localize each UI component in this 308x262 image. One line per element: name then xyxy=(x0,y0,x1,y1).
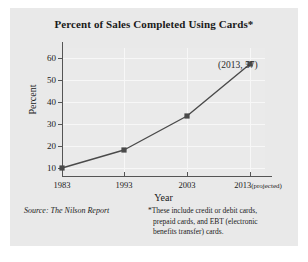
chart-figure: Percent of Sales Completed Using Cards* … xyxy=(10,8,298,246)
series-polyline xyxy=(62,64,250,168)
footnote-line-3: benefits transfer) cards. xyxy=(148,227,290,238)
source-note: Source: The Nilson Report xyxy=(24,206,109,215)
data-point-annotation: (2013, 57) xyxy=(218,60,258,70)
data-point-1993 xyxy=(121,147,126,152)
footnote-line-2: prepaid cards, and EBT (electronic xyxy=(148,217,290,228)
footnote-line-1: *These include credit or debit cards, xyxy=(148,206,257,215)
data-point-1983 xyxy=(59,165,64,170)
footnote: *These include credit or debit cards, pr… xyxy=(148,206,290,238)
data-point-2003 xyxy=(184,113,189,118)
